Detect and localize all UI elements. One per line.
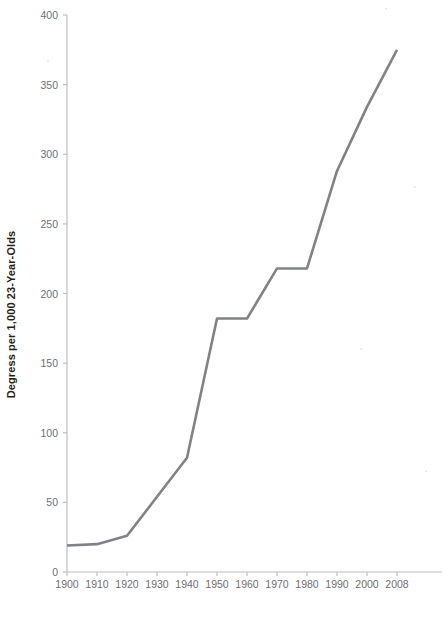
plot-area	[0, 0, 448, 629]
axis-lines	[67, 15, 442, 572]
data-series-line	[67, 50, 397, 546]
scan-artifact	[425, 470, 427, 472]
scan-artifact	[414, 186, 416, 188]
scan-artifact	[47, 60, 49, 62]
axis-tick-marks	[63, 15, 397, 576]
line-chart: Degress per 1,000 23-Year-Olds 050100150…	[0, 0, 448, 629]
scan-artifact	[360, 348, 362, 350]
scan-artifact	[385, 8, 387, 10]
